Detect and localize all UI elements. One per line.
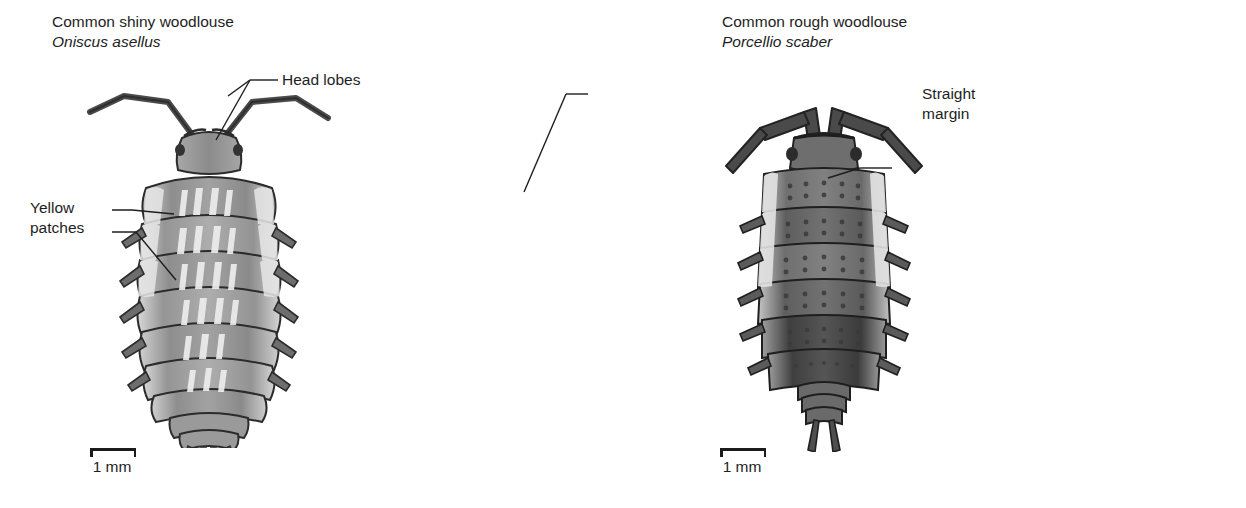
annotation-yellow-patches-line1: Yellow <box>30 198 84 218</box>
woodlouse-identification-figure: Common shiny woodlouse Oniscus asellus <box>0 0 1246 508</box>
scale-bar-line <box>90 448 136 451</box>
panel-common-striped-woodlouse: Common striped woodlouse Philoscia musco… <box>630 0 930 508</box>
common-name-label: Common shiny woodlouse <box>52 12 234 32</box>
panel-common-shiny-woodlouse: Common shiny woodlouse Oniscus asellus <box>0 0 330 508</box>
scale-bar-graphic <box>82 448 144 457</box>
scale-bar-common-shiny-woodlouse: 1 mm <box>82 448 144 476</box>
illustration-oniscus-asellus <box>84 78 334 448</box>
scale-bar-cap-left <box>90 448 93 457</box>
panel-common-rough-woodlouse: Common rough woodlouse Porcellio scaber <box>330 0 630 508</box>
caption-common-shiny-woodlouse: Common shiny woodlouse Oniscus asellus <box>52 12 234 52</box>
scale-bar-cap-right <box>134 448 137 457</box>
annotation-yellow-patches: Yellow patches <box>30 198 84 238</box>
latin-name-label: Oniscus asellus <box>52 32 234 52</box>
scale-bar-label: 1 mm <box>82 458 144 476</box>
panel-common-pill-woodlouse: Common pill woodlouse Armadillium vulgar… <box>930 0 1246 508</box>
annotation-yellow-patches-line2: patches <box>30 218 84 238</box>
